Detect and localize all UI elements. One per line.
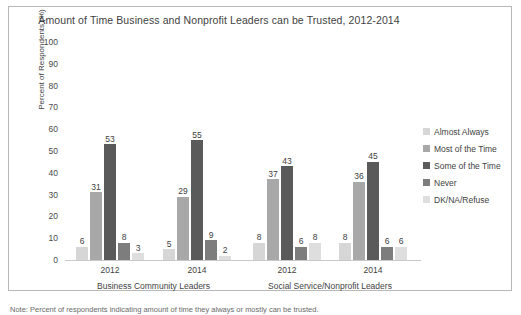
bar: 6 xyxy=(295,247,307,260)
bar-value-label: 8 xyxy=(313,233,318,242)
x-axis-group-label: Business Community Leaders xyxy=(97,281,210,291)
legend-swatch-icon xyxy=(423,196,430,203)
bar-value-label: 29 xyxy=(178,187,187,196)
bar: 9 xyxy=(205,240,217,260)
x-axis-group-label: Social Service/Nonprofit Leaders xyxy=(268,281,392,291)
bar-cluster: 5295592 xyxy=(163,42,231,260)
legend-item[interactable]: Never xyxy=(423,174,501,191)
legend-label: Some of the Time xyxy=(434,161,501,171)
y-axis-tick-label: 50 xyxy=(24,147,58,156)
bar-value-label: 5 xyxy=(167,240,172,249)
bar: 5 xyxy=(163,249,175,260)
legend-label: DK/NA/Refuse xyxy=(434,195,489,205)
bar: 8 xyxy=(309,243,321,260)
x-axis-year-label: 2014 xyxy=(364,265,383,275)
bar: 45 xyxy=(367,162,379,260)
bar: 31 xyxy=(90,192,102,260)
bar-value-label: 6 xyxy=(80,237,85,246)
bar: 3 xyxy=(132,253,144,260)
bar: 8 xyxy=(253,243,265,260)
legend-label: Never xyxy=(434,178,457,188)
bar-cluster: 8364566 xyxy=(339,42,407,260)
y-axis-tick-label: 60 xyxy=(24,125,58,134)
bar: 53 xyxy=(104,144,116,260)
y-axis-tick-label: 30 xyxy=(24,190,58,199)
bar: 43 xyxy=(281,166,293,260)
x-axis-line xyxy=(65,260,421,261)
bar-value-label: 36 xyxy=(354,172,363,181)
bar: 8 xyxy=(339,243,351,260)
y-axis-tick-label: 70 xyxy=(24,103,58,112)
legend-item[interactable]: DK/NA/Refuse xyxy=(423,191,501,208)
x-axis-year-label: 2012 xyxy=(101,265,120,275)
bar: 8 xyxy=(118,243,130,260)
y-axis-tick-label: 40 xyxy=(24,169,58,178)
bar-value-label: 53 xyxy=(105,135,114,144)
bar-cluster: 8374368 xyxy=(253,42,321,260)
bar-value-label: 43 xyxy=(282,157,291,166)
y-axis-tick-label: 100 xyxy=(24,38,58,47)
y-axis-tick-label: 10 xyxy=(24,234,58,243)
chart-footnote: Note: Percent of respondents indicating … xyxy=(10,306,515,315)
bar-value-label: 8 xyxy=(343,233,348,242)
chart-title: Amount of Time Business and Nonprofit Le… xyxy=(9,14,429,26)
bar-value-label: 3 xyxy=(136,244,141,253)
bar-value-label: 8 xyxy=(122,233,127,242)
bar: 2 xyxy=(219,256,231,260)
legend-swatch-icon xyxy=(423,128,430,135)
legend-item[interactable]: Almost Always xyxy=(423,123,501,140)
legend-swatch-icon xyxy=(423,145,430,152)
legend-swatch-icon xyxy=(423,162,430,169)
bar-value-label: 6 xyxy=(399,237,404,246)
plot-area: 1009080706050403020100 63153835295592837… xyxy=(65,42,420,260)
bar-value-label: 9 xyxy=(209,231,214,240)
bar-value-label: 55 xyxy=(192,131,201,140)
bar: 29 xyxy=(177,197,189,260)
bar: 55 xyxy=(191,140,203,260)
bar: 6 xyxy=(381,247,393,260)
y-axis-tick-label: 20 xyxy=(24,212,58,221)
legend-swatch-icon xyxy=(423,179,430,186)
chart-legend: Almost AlwaysMost of the TimeSome of the… xyxy=(423,123,501,208)
bar-value-label: 8 xyxy=(257,233,262,242)
bar: 6 xyxy=(395,247,407,260)
bar: 37 xyxy=(267,179,279,260)
bar: 36 xyxy=(353,182,365,260)
x-axis-year-label: 2014 xyxy=(188,265,207,275)
legend-label: Almost Always xyxy=(434,127,489,137)
y-axis-tick-label: 80 xyxy=(24,81,58,90)
legend-item[interactable]: Some of the Time xyxy=(423,157,501,174)
bar-cluster: 6315383 xyxy=(76,42,144,260)
bar-value-label: 37 xyxy=(268,170,277,179)
y-axis-tick-label: 0 xyxy=(24,256,58,265)
bar-value-label: 31 xyxy=(91,183,100,192)
bar-value-label: 6 xyxy=(299,237,304,246)
legend-item[interactable]: Most of the Time xyxy=(423,140,501,157)
bar-value-label: 45 xyxy=(368,152,377,161)
y-axis-tick-label: 90 xyxy=(24,60,58,69)
bar-value-label: 6 xyxy=(385,237,390,246)
bar: 6 xyxy=(76,247,88,260)
chart-container: Amount of Time Business and Nonprofit Le… xyxy=(8,6,512,291)
bar-value-label: 2 xyxy=(223,246,228,255)
legend-label: Most of the Time xyxy=(434,144,497,154)
x-axis-year-label: 2012 xyxy=(278,265,297,275)
